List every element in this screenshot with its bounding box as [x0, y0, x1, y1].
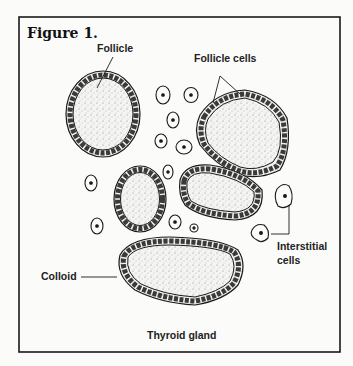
follicle-top-left — [66, 71, 140, 157]
follicle-top-right — [197, 90, 289, 177]
figure-title: Figure 1. — [27, 25, 98, 41]
follicle-bottom — [119, 237, 243, 305]
label-interstitial-cells: cells — [277, 254, 301, 266]
label-interstitial: Interstitial — [277, 240, 327, 252]
label-colloid: Colloid — [41, 270, 77, 282]
thyroid-diagram: Figure 1. — [0, 0, 353, 366]
label-follicle: Follicle — [97, 42, 133, 54]
figure-caption: Thyroid gland — [147, 329, 216, 341]
follicle-middle-left — [114, 166, 166, 232]
label-follicle-cells: Follicle cells — [194, 52, 257, 64]
